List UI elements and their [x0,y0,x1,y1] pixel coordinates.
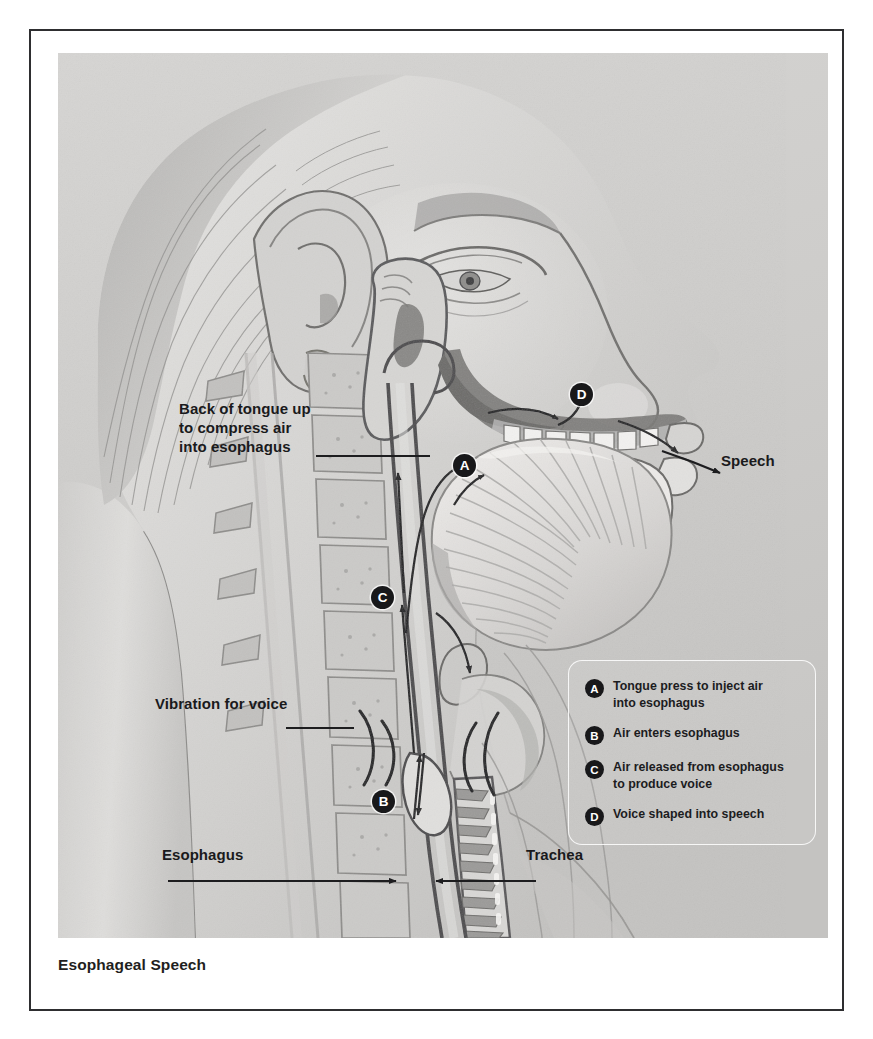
marker-a: A [453,454,476,477]
callout-vibration-for-voice: Vibration for voice [155,694,287,713]
figure-frame: Back of tongue up to compress air into e… [29,29,844,1011]
figure-caption: Esophageal Speech [58,956,206,974]
callout-back-of-tongue: Back of tongue up to compress air into e… [179,399,379,456]
legend-panel: A Tongue press to inject air into esopha… [568,660,816,845]
callout-esophagus: Esophagus [162,845,243,864]
legend-item-c: C Air released from esophagus to produce… [585,759,801,792]
marker-c: C [371,586,394,609]
legend-text-a: Tongue press to inject air into esophagu… [613,678,763,711]
legend-badge-c: C [585,760,604,779]
legend-item-a: A Tongue press to inject air into esopha… [585,678,801,711]
legend-item-d: D Voice shaped into speech [585,806,801,826]
legend-badge-b: B [585,726,604,745]
callout-trachea: Trachea [526,845,583,864]
callout-speech: Speech [721,451,775,470]
legend-text-b: Air enters esophagus [613,725,740,742]
legend-item-b: B Air enters esophagus [585,725,801,745]
legend-text-d: Voice shaped into speech [613,806,764,823]
marker-b: B [372,790,395,813]
legend-text-c: Air released from esophagus to produce v… [613,759,784,792]
legend-badge-a: A [585,679,604,698]
marker-d: D [570,383,593,406]
legend-badge-d: D [585,807,604,826]
figure-page: Back of tongue up to compress air into e… [0,0,873,1039]
